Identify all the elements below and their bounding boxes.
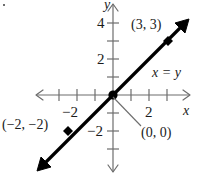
point-label-origin: (0, 0) xyxy=(141,126,171,140)
y-tick-label-4: 4 xyxy=(97,16,105,31)
scan-speck xyxy=(3,4,5,6)
equation-label: x = y xyxy=(152,66,181,80)
coordinate-plane-figure: y x 4 2 −2 −2 2 (3, 3) (−2, −2) (0, 0) x… xyxy=(0,0,198,175)
data-point-origin xyxy=(108,90,117,99)
x-axis-label: x xyxy=(183,104,189,118)
y-axis xyxy=(107,4,119,172)
point-label-3-3: (3, 3) xyxy=(131,18,161,32)
y-tick-label-2: 2 xyxy=(97,52,105,67)
origin-leader-line xyxy=(113,97,141,126)
x-tick-label-neg2: −2 xyxy=(62,105,78,120)
y-axis-label: y xyxy=(104,0,110,12)
y-tick-label-neg2: −2 xyxy=(87,124,103,139)
point-label-neg2-neg2: (−2, −2) xyxy=(2,118,48,132)
x-tick-label-2: 2 xyxy=(145,105,153,120)
